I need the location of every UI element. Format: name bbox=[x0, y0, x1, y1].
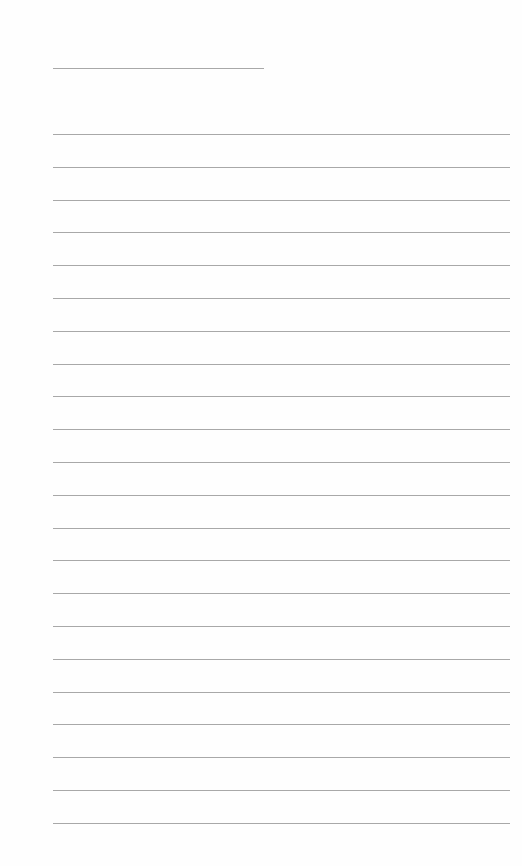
ruled-line bbox=[53, 462, 510, 463]
ruled-line bbox=[53, 692, 510, 693]
ruled-line bbox=[53, 528, 510, 529]
title-line bbox=[53, 68, 264, 69]
ruled-line bbox=[53, 134, 510, 135]
ruled-line bbox=[53, 265, 510, 266]
ruled-line bbox=[53, 429, 510, 430]
ruled-line bbox=[53, 331, 510, 332]
ruled-line bbox=[53, 232, 510, 233]
ruled-line bbox=[53, 593, 510, 594]
ruled-line bbox=[53, 298, 510, 299]
ruled-line bbox=[53, 495, 510, 496]
ruled-line bbox=[53, 659, 510, 660]
ruled-line bbox=[53, 757, 510, 758]
ruled-line bbox=[53, 396, 510, 397]
ruled-line bbox=[53, 200, 510, 201]
ruled-line bbox=[53, 364, 510, 365]
ruled-line bbox=[53, 790, 510, 791]
lined-page bbox=[0, 0, 522, 866]
ruled-line bbox=[53, 626, 510, 627]
ruled-line bbox=[53, 724, 510, 725]
ruled-line bbox=[53, 560, 510, 561]
ruled-line bbox=[53, 167, 510, 168]
ruled-line bbox=[53, 823, 510, 824]
